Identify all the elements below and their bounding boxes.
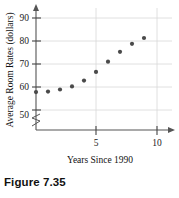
data-point: [94, 70, 98, 74]
gridlines: [36, 8, 172, 130]
data-point: [106, 60, 110, 64]
y-tick-label-90: 90: [20, 13, 30, 23]
data-point: [82, 79, 86, 83]
data-point: [130, 42, 134, 46]
x-axis: [36, 126, 175, 135]
y-axis-arrow: [33, 4, 39, 11]
y-axis-title: Average Room Rates (dollars): [5, 12, 16, 127]
x-tick-label-10: 10: [152, 138, 162, 148]
data-point: [46, 90, 50, 94]
data-point: [34, 90, 38, 94]
x-tick-labels: 5 10: [94, 138, 162, 148]
data-point: [70, 84, 74, 88]
y-tick-label-60: 60: [20, 82, 30, 92]
data-point: [118, 50, 122, 54]
scatter-plot-figure: 90 80 70 60 50 5 10 Years Since 1990 Ave…: [0, 0, 179, 168]
y-tick-labels: 90 80 70 60 50: [20, 13, 30, 120]
data-point: [58, 87, 62, 91]
figure-page: 90 80 70 60 50 5 10 Years Since 1990 Ave…: [0, 0, 179, 198]
data-points: [34, 36, 146, 94]
y-tick-label-70: 70: [20, 59, 30, 69]
y-axis: [32, 4, 41, 130]
y-tick-label-80: 80: [20, 36, 30, 46]
scatter-plot-svg: 90 80 70 60 50 5 10 Years Since 1990 Ave…: [0, 0, 179, 168]
y-tick-label-50: 50: [20, 110, 30, 120]
x-axis-arrow: [168, 127, 175, 133]
x-axis-title: Years Since 1990: [67, 155, 133, 165]
x-tick-label-5: 5: [94, 138, 99, 148]
figure-caption: Figure 7.35: [4, 176, 66, 188]
data-point: [142, 36, 146, 40]
